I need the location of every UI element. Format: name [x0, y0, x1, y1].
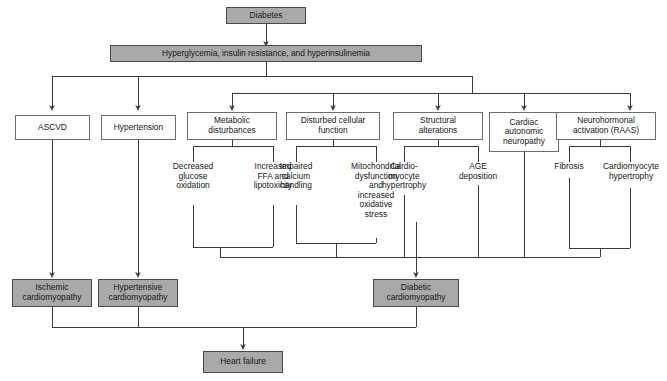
node-ascvd-label: ASCVD	[38, 123, 67, 133]
node-hypertensive-cardiomyopathy-label: Hypertensive cardiomyopathy	[108, 283, 167, 302]
node-ascvd[interactable]: ASCVD	[15, 115, 90, 140]
node-neurohormonal-activation[interactable]: Neurohormonal activation (RAAS)	[556, 112, 656, 140]
node-hypertensive-cardiomyopathy[interactable]: Hypertensive cardiomyopathy	[98, 279, 178, 307]
flowchart-diagram: Diabetes Hyperglycemia, insulin resistan…	[0, 0, 667, 381]
node-hyperglycemia[interactable]: Hyperglycemia, insulin resistance, and h…	[110, 45, 422, 62]
label-cardiomyocyte-hypertrophy-neurohormonal-text: Cardiomyocyte hypertrophy	[595, 162, 667, 181]
label-cardiomyocyte-hypertrophy-structural-text: Cardio- myocyte hypertrophy	[372, 162, 436, 191]
node-metabolic-disturbances[interactable]: Metabolic disturbances	[187, 112, 277, 140]
label-decreased-glucose-oxidation: Decreased glucose oxidation	[161, 162, 225, 207]
node-heart-failure[interactable]: Heart failure	[203, 351, 283, 373]
node-cardiac-autonomic-neuropathy[interactable]: Cardiac autonomic neuropathy	[489, 112, 559, 152]
label-impaired-calcium-handling: Impaired calcium handling	[266, 162, 326, 207]
node-diabetic-cardiomyopathy-label: Diabetic cardiomyopathy	[386, 283, 445, 302]
node-cardiac-autonomic-neuropathy-label: Cardiac autonomic neuropathy	[503, 118, 545, 147]
label-decreased-glucose-oxidation-text: Decreased glucose oxidation	[161, 162, 225, 191]
node-ischemic-cardiomyopathy-label: Ischemic cardiomyopathy	[22, 283, 81, 302]
node-structural-alterations-label: Structural alterations	[419, 116, 458, 135]
label-cardiomyocyte-hypertrophy-structural: Cardio- myocyte hypertrophy	[372, 162, 436, 207]
node-heart-failure-label: Heart failure	[220, 357, 266, 367]
node-hypertension[interactable]: Hypertension	[101, 115, 176, 140]
node-hypertension-label: Hypertension	[114, 123, 163, 133]
node-diabetic-cardiomyopathy[interactable]: Diabetic cardiomyopathy	[373, 279, 459, 307]
label-age-deposition: AGE deposition	[449, 162, 507, 197]
node-neurohormonal-activation-label: Neurohormonal activation (RAAS)	[573, 116, 639, 135]
node-disturbed-cellular-function[interactable]: Disturbed cellular function	[286, 112, 380, 140]
label-cardiomyocyte-hypertrophy-neurohormonal: Cardiomyocyte hypertrophy	[595, 162, 667, 197]
node-hyperglycemia-label: Hyperglycemia, insulin resistance, and h…	[162, 49, 370, 59]
node-ischemic-cardiomyopathy[interactable]: Ischemic cardiomyopathy	[12, 279, 92, 307]
label-impaired-calcium-handling-text: Impaired calcium handling	[266, 162, 326, 191]
node-diabetes[interactable]: Diabetes	[226, 7, 306, 24]
node-diabetes-label: Diabetes	[249, 11, 282, 21]
label-fibrosis-text: Fibrosis	[543, 162, 595, 172]
label-age-deposition-text: AGE deposition	[449, 162, 507, 181]
label-fibrosis: Fibrosis	[543, 162, 595, 184]
node-disturbed-cellular-function-label: Disturbed cellular function	[301, 116, 366, 135]
node-metabolic-disturbances-label: Metabolic disturbances	[208, 116, 256, 135]
node-structural-alterations[interactable]: Structural alterations	[393, 112, 483, 140]
